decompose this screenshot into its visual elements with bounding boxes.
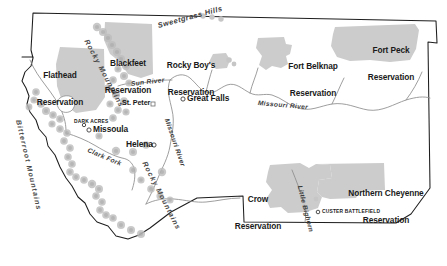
city-marker-helena [152, 143, 156, 147]
city-marker-great-falls [181, 97, 185, 101]
city-marker-custer-battlefield [316, 210, 320, 214]
city-marker-missoula [87, 128, 91, 132]
city-marker-st-peter [151, 102, 155, 106]
reservation-shape-fort-peck [331, 24, 419, 62]
montana-reservations-map: Flathead Reservation Blackfeet Reservati… [0, 0, 447, 266]
map-canvas [0, 0, 447, 266]
flathead-lake [57, 96, 75, 113]
city-marker-dark-acres [82, 123, 85, 126]
